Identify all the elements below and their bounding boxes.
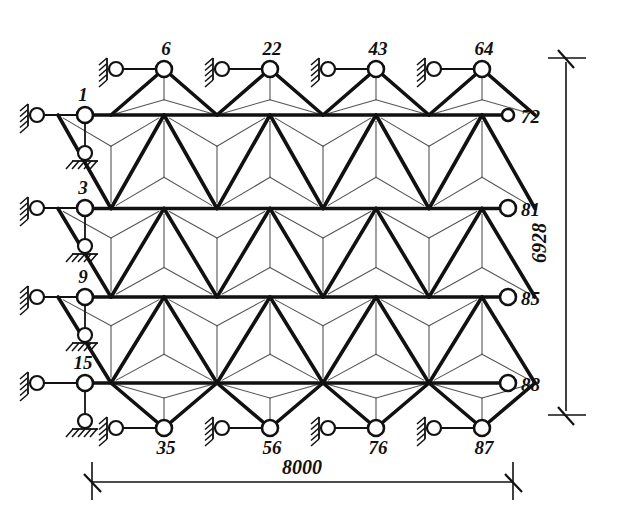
node-label-87: 87 — [475, 437, 496, 458]
support-pin — [78, 328, 92, 342]
support-pin — [78, 239, 92, 253]
support-pin — [30, 290, 44, 304]
dimension-label-width: 8000 — [282, 456, 322, 478]
node-64[interactable] — [474, 61, 490, 77]
node-43[interactable] — [368, 61, 384, 77]
support-pin — [109, 421, 123, 435]
node-label-88: 88 — [521, 374, 541, 395]
node-15[interactable] — [77, 375, 93, 391]
node-81[interactable] — [500, 200, 516, 216]
node-label-1: 1 — [78, 84, 88, 105]
support-pin — [427, 62, 441, 76]
node-label-85: 85 — [521, 288, 541, 309]
support-pin — [321, 62, 335, 76]
node-label-64: 64 — [475, 38, 494, 59]
support-pin — [427, 421, 441, 435]
node-1[interactable] — [77, 107, 93, 123]
node-76[interactable] — [368, 420, 384, 436]
node-label-15: 15 — [74, 352, 94, 373]
node-label-43: 43 — [368, 38, 388, 59]
node-label-22: 22 — [262, 38, 283, 59]
node-label-56: 56 — [263, 437, 283, 458]
support-pin — [215, 62, 229, 76]
support-pin — [30, 108, 44, 122]
support-pin — [30, 201, 44, 215]
node-6[interactable] — [156, 61, 172, 77]
node-9[interactable] — [77, 289, 93, 305]
support-pin — [321, 421, 335, 435]
node-label-6: 6 — [161, 38, 171, 59]
node-72[interactable] — [502, 109, 514, 121]
node-56[interactable] — [262, 420, 278, 436]
node-label-9: 9 — [78, 266, 88, 287]
node-label-72: 72 — [521, 106, 541, 127]
dimension-label-height: 6928 — [528, 223, 550, 263]
support-pin — [78, 146, 92, 160]
node-87[interactable] — [474, 420, 490, 436]
node-label-76: 76 — [369, 437, 389, 458]
node-label-3: 3 — [77, 177, 88, 198]
support-pin — [78, 414, 92, 428]
node-label-35: 35 — [156, 437, 177, 458]
support-pin — [215, 421, 229, 435]
drawing-canvas: 1391562243643556768772818588 6928 8000 — [0, 0, 624, 529]
truss-diagram: 1391562243643556768772818588 6928 8000 — [0, 0, 624, 529]
node-85[interactable] — [500, 289, 516, 305]
node-label-81: 81 — [521, 199, 540, 220]
node-3[interactable] — [77, 200, 93, 216]
node-35[interactable] — [156, 420, 172, 436]
support-pin — [109, 62, 123, 76]
node-88[interactable] — [500, 375, 516, 391]
node-22[interactable] — [262, 61, 278, 77]
support-pin — [30, 376, 44, 390]
